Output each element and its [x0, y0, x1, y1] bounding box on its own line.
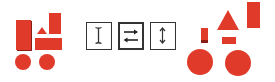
vertical-double-arrow-icon	[151, 23, 174, 48]
right-shape-group	[180, 0, 275, 82]
left-shape-group	[0, 0, 80, 82]
vertical-arrow-box	[150, 22, 176, 50]
left-shapes-graphic	[0, 0, 80, 82]
swap-arrows-icon	[120, 24, 142, 48]
right-shapes-graphic	[180, 0, 275, 82]
i-beam-icon	[87, 23, 110, 48]
swap-box	[118, 22, 144, 50]
i-beam-box	[86, 22, 112, 50]
